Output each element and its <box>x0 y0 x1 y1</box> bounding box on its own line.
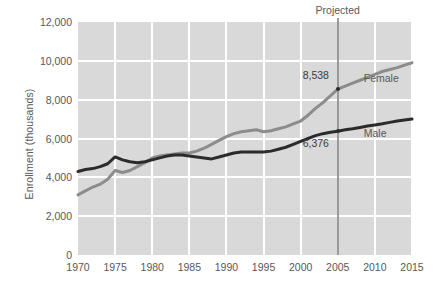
y-tick-label: 4,000 <box>18 171 72 183</box>
x-tick-label: 2005 <box>326 261 349 273</box>
y-tick-label: 12,000 <box>18 16 72 28</box>
series-line-male <box>78 119 412 171</box>
enrollment-line-chart: Enrollment (thousands) 02,0004,0006,0008… <box>0 0 436 287</box>
series-label-male: Male <box>364 127 387 139</box>
series-line-female <box>78 63 412 195</box>
projected-label: Projected <box>316 4 360 16</box>
x-tick-label: 1990 <box>215 261 238 273</box>
x-tick-label: 1970 <box>66 261 89 273</box>
x-tick-label: 1985 <box>178 261 201 273</box>
x-tick-label: 2015 <box>400 261 423 273</box>
series-label-female: Female <box>364 72 399 84</box>
x-tick-label: 1980 <box>141 261 164 273</box>
x-tick-label: 2000 <box>289 261 312 273</box>
female-2005-value: 8,538 <box>303 69 329 81</box>
y-tick-label: 10,000 <box>18 55 72 67</box>
y-tick-label: 2,000 <box>18 210 72 222</box>
y-axis-tick-labels: 02,0004,0006,0008,00010,00012,000 <box>18 0 72 287</box>
y-tick-label: 6,000 <box>18 133 72 145</box>
series-lines <box>78 22 412 255</box>
x-tick-label: 2010 <box>363 261 386 273</box>
y-tick-label: 8,000 <box>18 94 72 106</box>
y-tick-label: 0 <box>18 249 72 261</box>
male-2005-value: 6,376 <box>303 137 329 149</box>
plot-area <box>78 22 412 255</box>
x-axis-tick-labels: 1970197519801985199019952000200520102015 <box>78 261 412 281</box>
x-tick-label: 1995 <box>252 261 275 273</box>
x-tick-label: 1975 <box>103 261 126 273</box>
projected-divider-line <box>337 18 339 255</box>
